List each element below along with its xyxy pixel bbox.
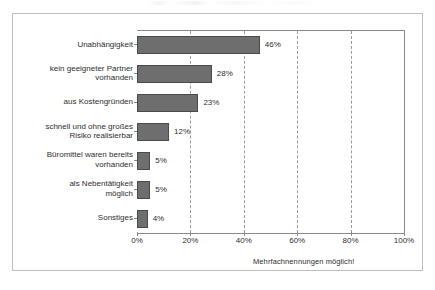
bar-value-label: 12% — [174, 128, 190, 136]
bar-row: 23% — [137, 94, 404, 112]
x-tick-label: 0% — [131, 237, 143, 245]
bar-row: 5% — [137, 181, 404, 199]
chart-footnote: Mehrfachnennungen möglich! — [253, 257, 354, 266]
bar — [137, 94, 198, 112]
bar-value-label: 23% — [203, 99, 219, 107]
x-axis: 0%20%40%60%80%100% — [137, 236, 405, 250]
x-tick-label: 60% — [289, 237, 305, 245]
bar-value-label: 5% — [155, 157, 167, 165]
category-label: Unabhängigkeit — [19, 40, 137, 50]
bar — [137, 210, 148, 228]
x-tick-label: 80% — [343, 237, 359, 245]
bar-value-label: 4% — [153, 215, 165, 223]
plot-area: 46%28%23%12%5%5%4% — [137, 30, 405, 234]
bar — [137, 123, 169, 141]
bar — [137, 65, 212, 83]
bar-rows: 46%28%23%12%5%5%4% — [137, 31, 404, 233]
x-tick-label: 40% — [236, 237, 252, 245]
bar — [137, 181, 150, 199]
bar-value-label: 46% — [265, 41, 281, 49]
bar-row: 5% — [137, 152, 404, 170]
x-tick-label: 20% — [182, 237, 198, 245]
bar — [137, 36, 260, 54]
bar-value-label: 5% — [155, 186, 167, 194]
scan-artifact-top — [148, 1, 318, 5]
category-label: kein geeigneter Partnervorhanden — [19, 64, 137, 83]
bar-row: 28% — [137, 65, 404, 83]
category-label: Büromittel waren bereitsvorhanden — [19, 150, 137, 169]
x-tick-label: 100% — [394, 237, 414, 245]
bar-row: 4% — [137, 210, 404, 228]
category-label: aus Kostengründen — [19, 97, 137, 107]
bar-row: 46% — [137, 36, 404, 54]
chart-figure-frame: Unabhängigkeitkein geeigneter Partnervor… — [12, 13, 423, 271]
category-label: Sonstiges — [19, 213, 137, 223]
bar — [137, 152, 150, 170]
category-label: als Nebentätigkeitmöglich — [19, 179, 137, 198]
bar-value-label: 28% — [217, 70, 233, 78]
bar-row: 12% — [137, 123, 404, 141]
category-axis: Unabhängigkeitkein geeigneter Partnervor… — [13, 30, 137, 234]
category-label: schnell und ohne großesRisiko realisierb… — [19, 122, 137, 141]
